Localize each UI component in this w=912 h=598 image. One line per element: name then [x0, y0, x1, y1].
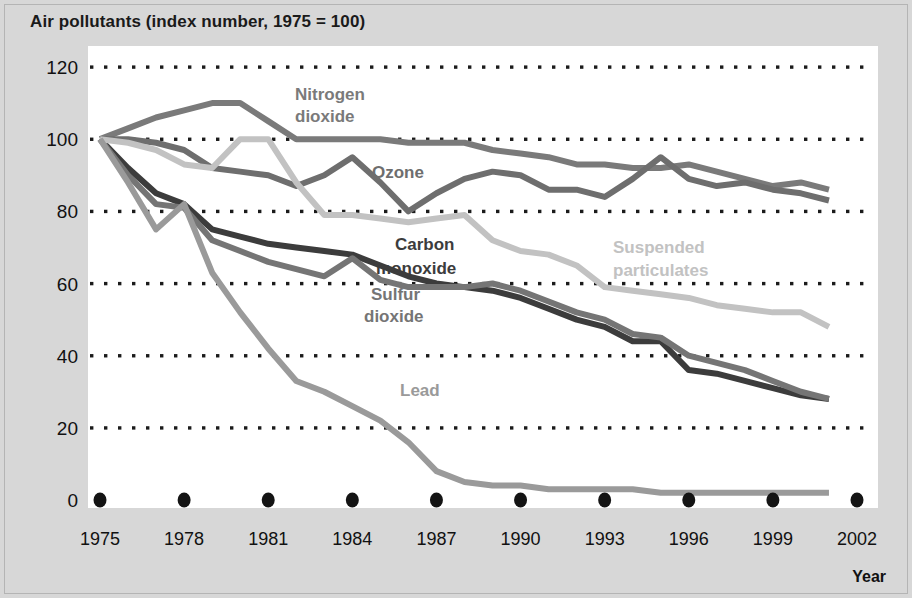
x-tick-dot: [766, 493, 779, 508]
line-chart-svg: [88, 46, 878, 508]
x-tick-label: 2002: [837, 529, 877, 549]
x-tick-label: 1987: [416, 529, 456, 549]
y-axis-tick-labels: 020406080100120: [46, 57, 78, 511]
y-tick-label: 20: [57, 418, 78, 439]
series-line: [100, 139, 829, 493]
x-tick-dot: [514, 493, 527, 508]
x-tick-dot: [94, 493, 107, 508]
x-tick-dot: [682, 493, 695, 508]
x-tick-label: 1993: [585, 529, 625, 549]
x-tick-label: 1999: [753, 529, 793, 549]
x-tick-label: 1984: [332, 529, 372, 549]
x-tick-dot: [851, 493, 864, 508]
x-tick-label: 1996: [669, 529, 709, 549]
x-tick-dot: [430, 493, 443, 508]
series-lines: [100, 103, 829, 493]
y-tick-label: 60: [57, 274, 78, 295]
y-tick-label: 40: [57, 346, 78, 367]
x-tick-dot: [178, 493, 191, 508]
y-tick-label: 120: [46, 57, 78, 78]
chart-title: Air pollutants (index number, 1975 = 100…: [30, 12, 365, 32]
y-tick-label: 100: [46, 129, 78, 150]
x-tick-label: 1990: [501, 529, 541, 549]
x-axis-tick-labels: 1975197819811984198719901993199619992002: [80, 529, 877, 549]
x-tick-label: 1981: [248, 529, 288, 549]
gridlines: [90, 65, 863, 429]
x-tick-label: 1975: [80, 529, 120, 549]
x-tick-dot: [262, 493, 275, 508]
chart-figure: Air pollutants (index number, 1975 = 100…: [0, 0, 912, 598]
x-axis-title: Year: [852, 568, 886, 586]
x-tick-label: 1978: [164, 529, 204, 549]
y-tick-label: 0: [67, 490, 78, 511]
x-tick-dot: [346, 493, 359, 508]
y-tick-label: 80: [57, 201, 78, 222]
plot-area: [88, 46, 878, 508]
x-tick-dot: [598, 493, 611, 508]
